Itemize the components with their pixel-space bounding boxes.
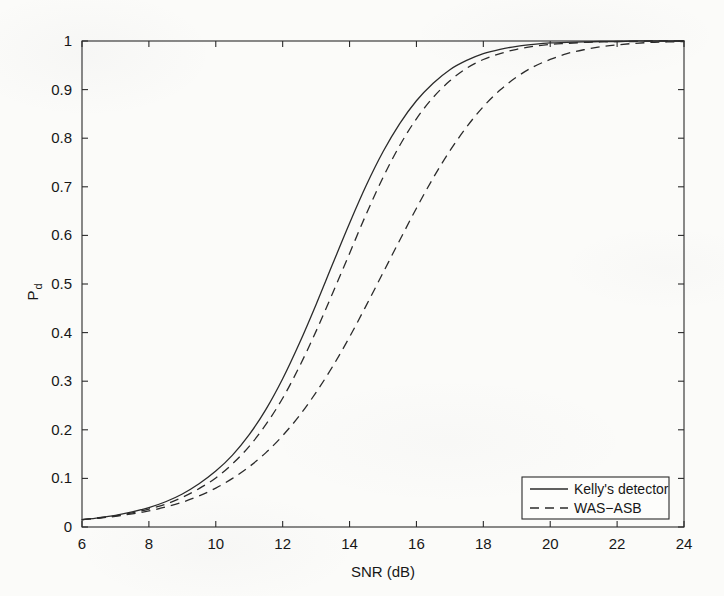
x-axis-tick-labels: 681012141618202224	[78, 535, 693, 552]
y-tick-label: 0.7	[51, 178, 72, 195]
x-tick-label: 24	[676, 535, 693, 552]
legend: Kelly's detector WAS−ASB	[522, 477, 669, 519]
y-tick-label: 0.4	[51, 324, 72, 341]
y-axis-tick-labels: 00.10.20.30.40.50.60.70.80.91	[51, 32, 72, 535]
x-tick-label: 8	[145, 535, 153, 552]
y-tick-label: 0.8	[51, 129, 72, 146]
y-axis-ticks	[82, 41, 684, 527]
curve-series-1	[82, 41, 684, 520]
roc-chart: 681012141618202224 00.10.20.30.40.50.60.…	[0, 0, 724, 596]
x-tick-label: 10	[207, 535, 224, 552]
y-tick-label: 0.6	[51, 226, 72, 243]
figure-container: 681012141618202224 00.10.20.30.40.50.60.…	[0, 0, 724, 596]
legend-label-kelly: Kelly's detector	[574, 481, 669, 497]
x-tick-label: 12	[274, 535, 291, 552]
y-axis-title-subscript: d	[32, 283, 44, 289]
x-tick-label: 18	[475, 535, 492, 552]
curve-series-0	[82, 41, 684, 520]
y-tick-label: 0.9	[51, 81, 72, 98]
legend-label-was-asb: WAS−ASB	[574, 500, 642, 516]
x-tick-label: 14	[341, 535, 358, 552]
curve-series-2	[82, 41, 684, 519]
x-tick-label: 16	[408, 535, 425, 552]
y-tick-label: 0.5	[51, 275, 72, 292]
svg-text:Pd: Pd	[24, 283, 44, 300]
y-tick-label: 0.1	[51, 469, 72, 486]
x-tick-label: 22	[609, 535, 626, 552]
x-tick-label: 6	[78, 535, 86, 552]
y-axis-title-base: P	[24, 291, 41, 301]
x-axis-title: SNR (dB)	[351, 563, 415, 580]
data-curves	[82, 41, 684, 520]
plot-frame	[82, 41, 684, 527]
y-tick-label: 0	[64, 518, 72, 535]
y-tick-label: 1	[64, 32, 72, 49]
y-tick-label: 0.3	[51, 372, 72, 389]
y-tick-label: 0.2	[51, 421, 72, 438]
x-axis-ticks	[82, 41, 684, 527]
y-axis-title: Pd	[24, 283, 44, 300]
x-tick-label: 20	[542, 535, 559, 552]
